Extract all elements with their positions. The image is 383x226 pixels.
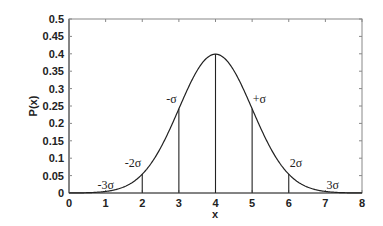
sigma-annotation: -2σ <box>125 156 142 170</box>
x-tick-label: 5 <box>249 197 255 209</box>
sigma-annotations: -3σ-2σ-σ+σ2σ3σ <box>97 92 339 192</box>
x-tick-label: 6 <box>286 197 292 209</box>
sigma-annotation: -3σ <box>97 178 114 192</box>
y-tick-label: 0.45 <box>43 30 64 42</box>
x-tick-label: 7 <box>322 197 328 209</box>
x-tick-label: 0 <box>66 197 72 209</box>
y-tick-label: 0.2 <box>49 117 64 129</box>
x-axis-label: x <box>212 208 219 220</box>
x-tick-label: 1 <box>103 197 109 209</box>
y-tick-label: 0.4 <box>49 48 65 60</box>
y-tick-label: 0.3 <box>49 83 64 95</box>
sigma-annotation: +σ <box>253 92 267 106</box>
x-tick-label: 3 <box>176 197 182 209</box>
y-tick-label: 0.05 <box>43 170 64 182</box>
sigma-annotation: 3σ <box>326 178 339 192</box>
y-tick-label: 0.25 <box>43 100 64 112</box>
sigma-annotation: -σ <box>166 92 177 106</box>
y-tick-label: 0.35 <box>43 65 64 77</box>
x-tick-label: 2 <box>139 197 145 209</box>
normal-distribution-chart: 00.050.10.150.20.250.30.350.40.450.5 012… <box>0 0 383 226</box>
y-tick-label: 0.1 <box>49 152 64 164</box>
y-tick-label: 0 <box>58 187 64 199</box>
sigma-annotation: 2σ <box>290 156 303 170</box>
y-axis-label: P(x) <box>27 95 39 116</box>
y-axis-ticks: 00.050.10.150.20.250.30.350.40.450.5 <box>43 13 362 199</box>
y-tick-label: 0.5 <box>49 13 64 25</box>
sigma-lines <box>142 54 289 193</box>
x-tick-label: 8 <box>359 197 365 209</box>
y-tick-label: 0.15 <box>43 135 64 147</box>
